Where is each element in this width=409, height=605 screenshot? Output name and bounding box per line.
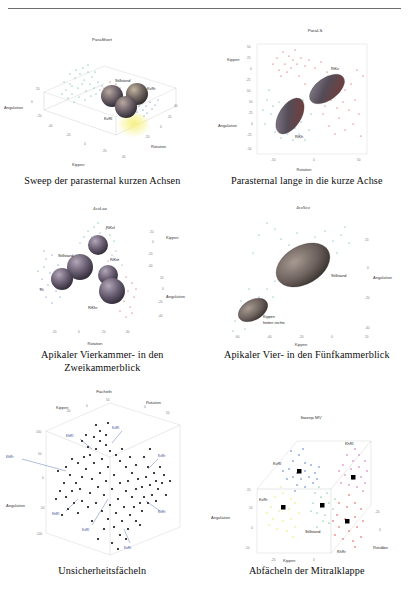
parals-axis-kippen: Kippen (227, 57, 239, 62)
svg-text:0: 0 (251, 526, 253, 530)
svg-text:20: 20 (103, 149, 107, 153)
fourcvfivecv-title: 4cv5cv (296, 205, 310, 210)
sweepmv-label-khrr: KhRr (337, 550, 346, 554)
svg-text:-20: -20 (148, 252, 153, 256)
faecheln-axis-angulation: Angulation (6, 503, 25, 508)
sweepmv-cluster-kvrr (266, 487, 299, 538)
faecheln-axis-kippen: Kippen (56, 405, 68, 410)
figure-4cvlax: 4cvLax 200-20 -40 200-20 -40 -200 2040 K… (0, 193, 205, 380)
svg-text:-50: -50 (246, 89, 251, 93)
sweepmv-axis-kippen: Kippen (283, 558, 295, 563)
svg-text:-40: -40 (365, 326, 370, 330)
svg-text:20: 20 (102, 330, 106, 334)
svg-text:25: 25 (247, 56, 251, 60)
svg-text:50: 50 (357, 158, 361, 162)
caption-parals: Parasternal lange in die kurze Achse (205, 174, 409, 193)
faecheln-plot: Fächeln -50050 050 100500 -50-100 (0, 379, 204, 564)
caption-4cvlax: Apikaler Vierkammer- in den Zweikammerbl… (0, 348, 205, 380)
svg-text:-25: -25 (246, 78, 251, 82)
svg-text:-20: -20 (66, 133, 71, 137)
svg-text:20: 20 (160, 276, 164, 280)
svg-text:20: 20 (168, 115, 172, 119)
fourcvlax-blob-rikhr (99, 278, 125, 304)
caption-sweep-mv: Abfächeln der Mitralklappe (205, 564, 409, 583)
svg-text:-20: -20 (375, 510, 380, 514)
sweepmv-plot: Sweep MV 2010 0-10 -200 -20020 Ang (205, 379, 409, 564)
svg-text:0: 0 (250, 67, 252, 71)
fourcvfivecv-blob-stillstand (268, 234, 337, 296)
faecheln-label-3: KvRr (158, 454, 166, 458)
fourcvlax-axis-kippen: Kippen (166, 235, 178, 240)
parashort-axis-angulation: Angulation (4, 105, 23, 110)
svg-text:20: 20 (36, 87, 40, 91)
caption-faecheln: Unsicherheitsfächeln (0, 564, 205, 583)
fourcvlax-axis-angulation: Angulation (166, 294, 185, 299)
sweepmv-axis-rotation: Rotation (373, 545, 388, 550)
svg-text:25: 25 (249, 111, 253, 115)
faecheln-title: Fächeln (96, 389, 112, 394)
fourcvfivecv-label-hinten-rechts: hinten rechts (263, 321, 285, 325)
svg-text:40: 40 (122, 155, 126, 159)
fourcvlax-label-rikhr: RiKhr (88, 306, 98, 310)
sweepmv-axes-box (257, 441, 371, 553)
fourcvlax-label-ri: Ri (40, 288, 44, 292)
faecheln-axis-rotation: Rotation (146, 400, 161, 405)
sweepmv-label-stillstand: Stillstand (305, 530, 320, 534)
fourcvlax-blob-rikvl (88, 235, 108, 255)
sweepmv-center-khrr (345, 519, 350, 524)
caption-parashort: Sweep der parasternal kurzen Achsen (0, 174, 205, 193)
fourcvlax-label-stillstand: Stillstand (58, 254, 73, 258)
faecheln-label-2: KhRr (6, 455, 14, 459)
svg-text:-20: -20 (145, 135, 150, 139)
svg-text:20: 20 (365, 335, 369, 339)
fourcvfivecv-axis-kippen: Kippen (295, 342, 307, 347)
fourcvfivecv-axis-angulation: Angulation (373, 275, 392, 280)
svg-text:50: 50 (166, 411, 170, 415)
svg-text:0: 0 (86, 404, 88, 408)
svg-text:-40: -40 (148, 264, 153, 268)
parals-plot: ParaLS 50250 -25-50 50250 -25-50 -50050 … (205, 14, 409, 174)
svg-text:40: 40 (174, 104, 178, 108)
svg-text:-40: -40 (158, 314, 163, 318)
page-top-divider (8, 8, 401, 9)
faecheln-label-7: KvRr (124, 546, 132, 550)
parashort-plot: ParaShort 200 -20-40 -200 2040 (0, 14, 204, 174)
parals-axis-rotation: Rotation (296, 167, 311, 172)
svg-text:0: 0 (144, 405, 146, 409)
svg-text:0: 0 (84, 142, 86, 146)
svg-text:-100: -100 (36, 532, 42, 536)
figure-row-2: 4cvLax 200-20 -40 200-20 -40 -200 2040 K… (0, 193, 409, 380)
figure-parals: ParaLS 50250 -25-50 50250 -25-50 -50050 … (205, 14, 409, 193)
faecheln-annotations: KvRl KhRl KhRr KvRr KhRl KvRl KhRr KvRr (6, 426, 166, 550)
parals-blob-rikh (270, 93, 310, 139)
svg-text:0: 0 (367, 266, 369, 270)
svg-text:50: 50 (249, 100, 253, 104)
figure-cell-sweep-mv: Sweep MV 2010 0-10 -200 -20020 Ang (205, 379, 409, 583)
svg-text:0: 0 (42, 476, 44, 480)
parashort-label-kvrr: KvRr (147, 87, 156, 91)
svg-text:50: 50 (38, 452, 42, 456)
svg-text:100: 100 (36, 430, 41, 434)
fourcvlax-axis-rotation: Rotation (88, 341, 103, 346)
faecheln-label-0: KvRl (112, 426, 119, 430)
sweepmv-title: Sweep MV (300, 415, 321, 420)
svg-text:-60: -60 (235, 335, 240, 339)
sweepmv-axis-angulation: Angulation (211, 515, 230, 520)
svg-text:-20: -20 (52, 330, 57, 334)
figure-row-1: ParaShort 200 -20-40 -200 2040 (0, 14, 409, 193)
svg-text:-25: -25 (247, 133, 252, 137)
parashort-axis-rotation: Rotation (151, 144, 166, 149)
fourcvlax-title: 4cvLax (93, 206, 108, 211)
svg-text:0: 0 (31, 100, 33, 104)
parals-title: ParaLS (307, 28, 322, 33)
svg-text:-40: -40 (267, 335, 272, 339)
sweepmv-label-khrl: KhRl (345, 442, 353, 446)
faecheln-point-cloud (55, 422, 171, 550)
faecheln-label-4: KhRl (52, 512, 59, 516)
faecheln-label-5: KvRl (82, 528, 89, 532)
fourcvlax-label-rikvr: RiKvr (110, 258, 120, 262)
sweepmv-label-kvrl: KvRl (273, 462, 281, 466)
figure-page: ParaShort 200 -20-40 -200 2040 (0, 0, 409, 605)
fourcvfivecv-plot: 4cv5cv 200 -20-40 -60-40 -20020 Angulati… (205, 193, 409, 348)
caption-4cv5cv: Apikaler Vier- in den Fünfkammerblick (205, 348, 409, 367)
